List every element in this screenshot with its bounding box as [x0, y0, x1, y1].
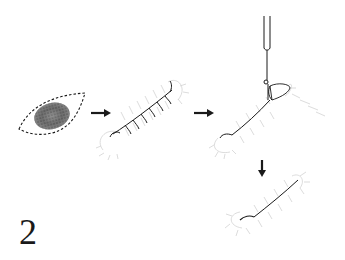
arrow-down-icon [258, 160, 266, 177]
forceps-icon [264, 16, 270, 84]
step-excision [19, 93, 85, 134]
figure-canvas: 2 [0, 0, 345, 260]
step-healed [225, 172, 310, 236]
arrow-right-icon [194, 109, 214, 117]
step-sutured [96, 80, 189, 160]
healed-scar-line [254, 180, 298, 217]
step-removal [209, 16, 325, 159]
arrow-right-icon [91, 109, 111, 117]
incision-line [113, 90, 172, 134]
figure-number: 2 [19, 214, 37, 250]
